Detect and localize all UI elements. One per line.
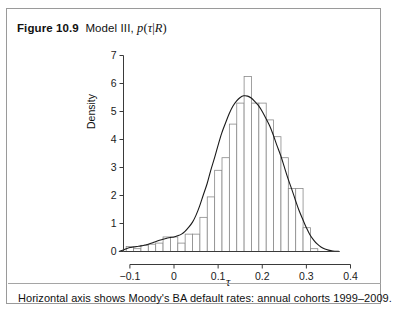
histogram-bar [251, 103, 258, 251]
x-tick-label: 0.3 [299, 270, 314, 282]
histogram-bar [141, 245, 148, 251]
histogram-bar [237, 103, 244, 251]
figure-title-math-close-paren: ) [163, 21, 167, 35]
figure-number: Figure 10.9 [17, 22, 79, 34]
y-tick-label: 0 [111, 245, 117, 257]
density-histogram-chart: −0.100.10.20.30.4 01234567 [7, 35, 382, 283]
histogram-bar [229, 124, 236, 251]
histogram-bar [215, 170, 222, 251]
figure-container: Figure 10.9 Model III, p(τ|R) −0.100.10.… [6, 8, 381, 304]
histogram-bar [148, 244, 155, 251]
y-tick-label: 2 [111, 189, 117, 201]
x-tick-label: 0.4 [343, 270, 358, 282]
x-tick-label: 0.1 [211, 270, 226, 282]
histogram-bar [170, 237, 177, 252]
y-tick-label: 7 [111, 49, 117, 61]
figure-title: Model III, [85, 22, 133, 34]
figure-title-math-R: R [155, 21, 163, 35]
histogram-bar [296, 189, 303, 252]
y-tick-label: 5 [111, 105, 117, 117]
chart-canvas: −0.100.10.20.30.4 01234567 [7, 35, 382, 283]
histogram-bar [193, 234, 200, 251]
x-axis-ticks: −0.100.10.20.30.4 [120, 265, 358, 282]
histogram-bar [156, 243, 163, 251]
histogram-bar [222, 158, 229, 252]
y-axis-label: Density [85, 94, 97, 129]
histogram-bars [126, 77, 318, 252]
y-tick-label: 3 [111, 161, 117, 173]
histogram-bar [185, 234, 192, 251]
histogram-bar [266, 120, 273, 252]
y-tick-label: 4 [111, 133, 117, 145]
histogram-bar [244, 77, 251, 252]
x-tick-label: 0 [171, 270, 177, 282]
histogram-bar [303, 228, 310, 252]
y-tick-label: 1 [111, 217, 117, 229]
y-axis-ticks: 01234567 [111, 49, 124, 257]
histogram-bar [200, 217, 207, 251]
y-tick-label: 6 [111, 77, 117, 89]
histogram-bar [178, 243, 185, 251]
x-tick-label: 0.2 [255, 270, 270, 282]
figure-caption-bottom: Horizontal axis shows Moody's BA default… [18, 290, 374, 306]
caption-divider [8, 283, 381, 284]
histogram-bar [259, 103, 266, 251]
x-tick-label: −0.1 [120, 270, 141, 282]
histogram-bar [207, 197, 214, 252]
histogram-bar [281, 158, 288, 252]
